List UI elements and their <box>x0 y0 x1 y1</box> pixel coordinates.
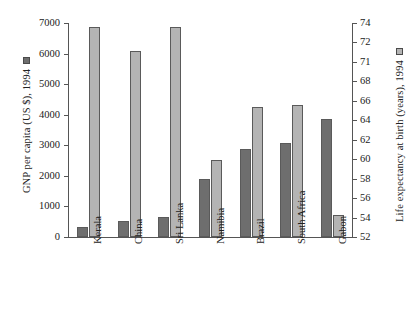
right-axis-tick <box>352 179 357 180</box>
right-axis-title-text: Life expectancy at birth (years), 1994 <box>394 60 405 222</box>
bar-life-expectancy-kerala <box>89 27 100 237</box>
right-axis-ticklabel: 62 <box>360 135 390 146</box>
right-axis-tick <box>352 218 357 219</box>
right-axis-ticklabel: 64 <box>360 115 390 126</box>
right-axis-ticklabel: 68 <box>360 76 390 87</box>
left-axis-ticklabel: 7000 <box>20 18 60 29</box>
left-axis-tick <box>64 54 69 55</box>
right-axis-ticklabel: 52 <box>360 232 390 243</box>
plot-area: 70006000500040003000200010000 7472716866… <box>68 23 353 237</box>
bar-gnp-namibia <box>199 179 210 237</box>
right-axis-title: Life expectancy at birth (years), 1994 <box>392 36 406 234</box>
category-label-south-africa: South Africa <box>296 191 307 244</box>
bar-gnp-brazil <box>240 149 251 237</box>
right-axis-ticklabel: 56 <box>360 193 390 204</box>
bar-gnp-kerala <box>77 227 88 237</box>
category-label-brazil: Brazil <box>255 218 266 244</box>
category-label-namibia: Namibia <box>215 208 226 244</box>
left-axis-ticklabel: 1000 <box>20 201 60 212</box>
right-axis-ticklabel: 72 <box>360 37 390 48</box>
category-label-sri-lanka: Sri Lanka <box>174 203 185 244</box>
left-axis-tick <box>64 84 69 85</box>
right-axis-ticklabel: 54 <box>360 213 390 224</box>
left-axis-tick <box>64 237 69 238</box>
bar-gnp-south-africa <box>280 143 291 237</box>
right-axis-tick <box>352 62 357 63</box>
left-axis-ticklabel: 0 <box>20 232 60 243</box>
right-axis-ticklabel: 74 <box>360 18 390 29</box>
category-label-gabon: Gabon <box>337 216 348 244</box>
left-axis-ticklabel: 2000 <box>20 171 60 182</box>
bar-gnp-sri-lanka <box>158 217 169 237</box>
right-axis-tick <box>352 140 357 141</box>
left-axis-ticklabel: 6000 <box>20 49 60 60</box>
bar-gnp-gabon <box>321 119 332 237</box>
category-label-china: China <box>133 219 144 244</box>
left-axis-tick <box>64 206 69 207</box>
bar-life-expectancy-china <box>130 51 141 237</box>
left-axis-tick <box>64 176 69 177</box>
right-axis-tick <box>352 120 357 121</box>
bar-gnp-china <box>118 221 129 237</box>
category-label-kerala: Kerala <box>92 216 103 244</box>
right-axis-tick <box>352 42 357 43</box>
left-axis-ticklabel: 3000 <box>20 140 60 151</box>
left-axis-tick <box>64 115 69 116</box>
right-axis-ticklabel: 66 <box>360 96 390 107</box>
left-axis-ticklabel: 4000 <box>20 110 60 121</box>
left-axis-line <box>68 23 69 237</box>
right-axis-tick <box>352 159 357 160</box>
right-axis-tick <box>352 237 357 238</box>
chart-figure: GNP per capita (US $), 1994 Life expecta… <box>0 0 414 317</box>
baseline-axis <box>67 237 354 238</box>
right-axis-ticklabel: 71 <box>360 57 390 68</box>
life-expectancy-legend-swatch <box>396 48 403 55</box>
right-axis-tick <box>352 198 357 199</box>
right-axis-tick <box>352 101 357 102</box>
right-axis-ticklabel: 60 <box>360 154 390 165</box>
right-axis-tick <box>352 23 357 24</box>
right-axis-ticklabel: 58 <box>360 174 390 185</box>
right-axis-tick <box>352 81 357 82</box>
left-axis-ticklabel: 5000 <box>20 79 60 90</box>
left-axis-tick <box>64 145 69 146</box>
left-axis-tick <box>64 23 69 24</box>
right-axis-line <box>352 23 353 237</box>
